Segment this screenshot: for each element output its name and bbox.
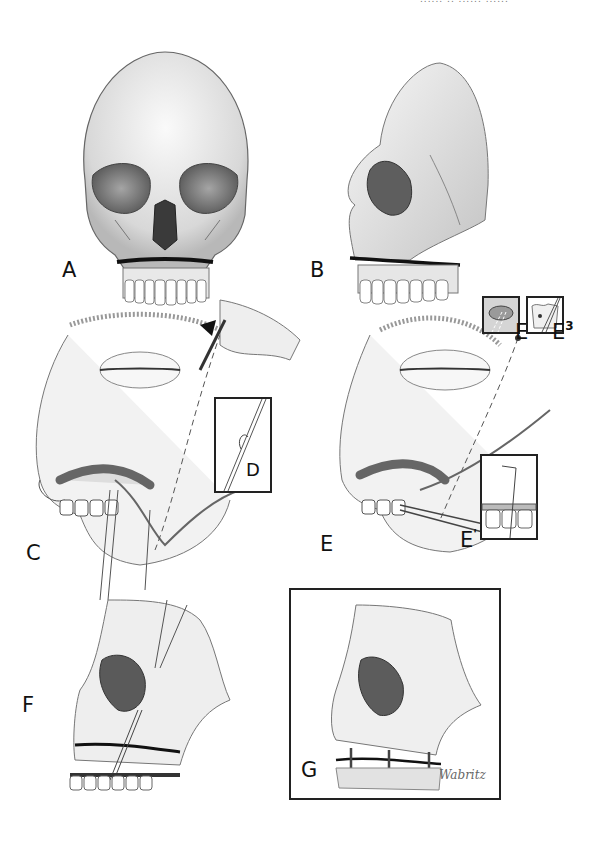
orbital-wire-detail: [484, 298, 518, 332]
fixed-maxilla-illustration: [291, 590, 499, 798]
label-e3-base: E: [552, 320, 565, 344]
artist-signature: Wabritz: [439, 768, 486, 782]
panel-label-e: E: [320, 534, 333, 555]
page-header-fragment: ...... .. ...... ......: [420, 0, 590, 4]
panel-label-g: G: [301, 760, 317, 781]
panel-label-c: C: [26, 543, 41, 564]
wire-loop-detail: [216, 399, 270, 491]
label-e1-superscript: ': [473, 527, 477, 541]
panel-label-e1: E': [460, 530, 477, 551]
panel-label-a: A: [62, 260, 76, 281]
panel-e-surgical-view: E2 E3 E' E: [320, 290, 590, 580]
panel-c-surgical-view: D C: [20, 300, 300, 600]
panel-label-d: D: [246, 461, 260, 479]
panel-a-frontal-skull: A: [55, 40, 265, 320]
skull-oblique-illustration: [310, 55, 500, 315]
skeletal-suspension-illustration: [30, 580, 280, 790]
arch-bar-wire-detail: [482, 456, 536, 538]
label-e1-base: E: [460, 528, 473, 552]
label-e3-superscript: 3: [565, 319, 573, 333]
panel-f-skeletal-fixation: F: [30, 580, 280, 790]
panel-label-b: B: [310, 260, 324, 281]
panel-label-f: F: [22, 695, 34, 716]
skull-frontal-illustration: [55, 40, 265, 320]
panel-b-oblique-skull: B: [310, 55, 500, 315]
panel-g-frame: Wabritz G: [289, 588, 501, 800]
inset-d-wire-loop: D: [214, 397, 272, 493]
inset-e1-arch-bar-wire: [480, 454, 538, 540]
panel-label-e3: E3: [552, 322, 574, 343]
